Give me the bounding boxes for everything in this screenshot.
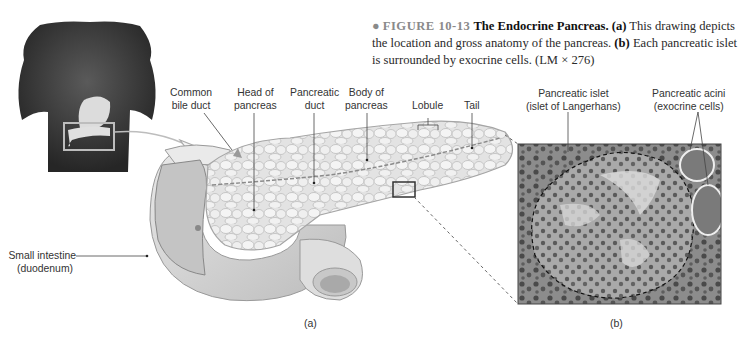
- pancreas-illustration: [0, 0, 740, 337]
- panel-label-b: (b): [610, 317, 623, 329]
- label-pancreatic-acini: Pancreatic acini(exocrine cells): [652, 88, 725, 113]
- panel-label-a: (a): [304, 317, 317, 329]
- label-tail: Tail: [464, 100, 480, 113]
- label-pancreatic-islet: Pancreatic islet(islet of Langerhans): [526, 88, 621, 113]
- pancreas: [206, 121, 513, 250]
- torso-thumbnail: [18, 21, 155, 172]
- label-small-intestine: Small intestine(duodenum): [0, 250, 76, 275]
- label-head-of-pancreas: Head ofpancreas: [234, 87, 277, 112]
- label-common-bile-duct: Commonbile duct: [170, 87, 212, 112]
- label-body-of-pancreas: Body ofpancreas: [345, 87, 388, 112]
- micrograph: [518, 144, 724, 304]
- label-pancreatic-duct: Pancreaticduct: [290, 87, 339, 112]
- label-lobule: Lobule: [412, 100, 443, 113]
